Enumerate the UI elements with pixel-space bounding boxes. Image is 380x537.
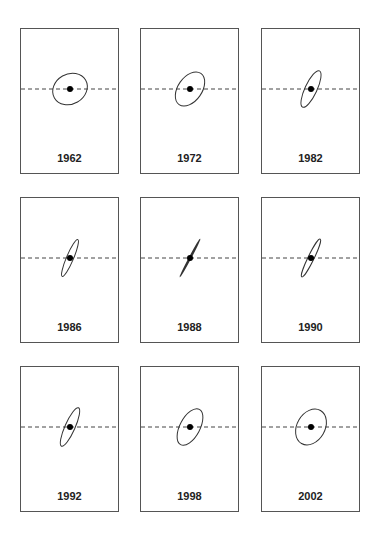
center-dot xyxy=(67,86,73,92)
year-label: 1990 xyxy=(262,321,359,333)
year-label: 1988 xyxy=(141,321,238,333)
year-label: 2002 xyxy=(262,490,359,502)
panel-1972: 1972 xyxy=(140,28,239,174)
panel-1982: 1982 xyxy=(261,28,360,174)
year-label: 1982 xyxy=(262,152,359,164)
panel-1998: 1998 xyxy=(140,366,239,512)
center-dot xyxy=(67,255,73,261)
center-dot xyxy=(308,255,314,261)
year-label: 1986 xyxy=(21,321,118,333)
panel-2002: 2002 xyxy=(261,366,360,512)
center-dot xyxy=(308,86,314,92)
panel-1988: 1988 xyxy=(140,197,239,343)
year-label: 1998 xyxy=(141,490,238,502)
center-dot xyxy=(187,86,193,92)
year-label: 1962 xyxy=(21,152,118,164)
panel-1990: 1990 xyxy=(261,197,360,343)
center-dot xyxy=(187,424,193,430)
panel-1962: 1962 xyxy=(20,28,119,174)
year-label: 1992 xyxy=(21,490,118,502)
panel-1992: 1992 xyxy=(20,366,119,512)
center-dot xyxy=(308,424,314,430)
center-dot xyxy=(67,424,73,430)
panel-1986: 1986 xyxy=(20,197,119,343)
center-dot xyxy=(187,255,193,261)
year-label: 1972 xyxy=(141,152,238,164)
